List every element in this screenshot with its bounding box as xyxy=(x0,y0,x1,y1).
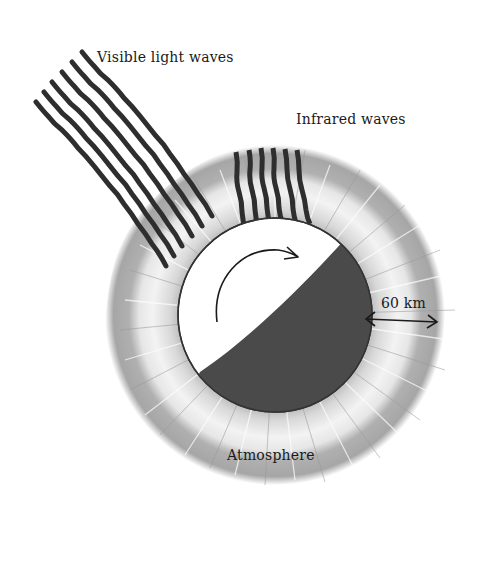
visible-light-waves-label: Visible light waves xyxy=(97,49,234,65)
greenhouse-diagram: Visible light waves Infrared waves 60 km… xyxy=(0,0,502,561)
distance-label: 60 km xyxy=(381,295,426,311)
diagram-canvas xyxy=(0,0,502,561)
infrared-waves-label: Infrared waves xyxy=(296,111,406,127)
atmosphere-label: Atmosphere xyxy=(227,447,315,463)
